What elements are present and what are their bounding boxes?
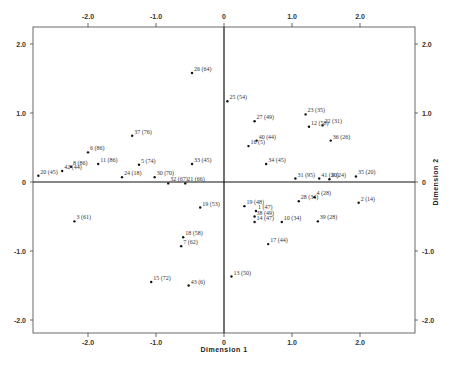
y-tick-label-left: 2.0: [16, 41, 26, 48]
data-point: 34 (45): [265, 157, 286, 165]
data-point: 43 (6): [187, 279, 205, 287]
data-point: 11 (86): [97, 157, 117, 165]
point-marker: [253, 215, 255, 217]
point-marker: [182, 236, 184, 238]
point-label: 17 (44): [270, 237, 288, 244]
point-label: 22 (31): [325, 118, 343, 125]
point-marker: [167, 182, 169, 184]
data-point: 7 (62): [180, 239, 198, 247]
data-point: 23 (35): [304, 107, 325, 115]
data-point: 20 (45): [37, 169, 58, 177]
x-tick-label-top: -1.0: [150, 13, 162, 20]
point-label: 23 (35): [308, 107, 326, 114]
data-point: 6 (86): [87, 145, 105, 153]
point-label: 27 (49): [257, 114, 275, 121]
data-point: 21 (66): [184, 176, 205, 184]
point-label: 39 (28): [320, 214, 338, 221]
data-point: 18 (58): [182, 230, 203, 238]
point-marker: [184, 182, 186, 184]
point-label: 25 (54): [229, 94, 247, 101]
y-tick-label-left: 1.0: [16, 110, 26, 117]
x-tick-label-bottom: -1.0: [150, 339, 162, 346]
point-marker: [267, 243, 269, 245]
point-label: 36 (26): [333, 134, 351, 141]
x-tick-label-top: 0: [222, 13, 226, 20]
x-tick-label-bottom: 1.0: [287, 339, 297, 346]
point-label: 21 (66): [187, 176, 205, 183]
point-label: 20 (45): [40, 169, 58, 176]
point-marker: [355, 175, 357, 177]
point-marker: [37, 175, 39, 177]
point-marker: [281, 221, 283, 223]
point-label: 9 (24): [331, 172, 346, 179]
point-marker: [73, 220, 75, 222]
point-marker: [308, 126, 310, 128]
data-point: 39 (28): [317, 214, 338, 222]
data-point: 36 (26): [330, 134, 351, 142]
point-marker: [97, 163, 99, 165]
point-label: 42 (44): [64, 164, 82, 171]
point-label: 31 (95): [297, 172, 315, 179]
point-marker: [294, 177, 296, 179]
scatter-chart: -2.0-2.0-1.0-1.0001.01.02.02.0 2.02.01.0…: [0, 0, 452, 369]
data-point: 42 (44): [61, 164, 82, 172]
data-point: 27 (49): [253, 114, 274, 122]
point-marker: [243, 205, 245, 207]
y-tick-label-right: 1.0: [422, 110, 432, 117]
point-label: 2 (14): [361, 196, 376, 203]
data-point: 25 (54): [226, 94, 247, 102]
point-label: 6 (86): [90, 145, 105, 152]
y-axis-label: Dimension 2: [432, 158, 439, 205]
point-label: 34 (45): [268, 157, 286, 164]
point-marker: [304, 113, 306, 115]
point-marker: [131, 135, 133, 137]
point-marker: [298, 200, 300, 202]
point-label: 3 (61): [76, 214, 91, 221]
point-marker: [187, 284, 189, 286]
point-marker: [191, 163, 193, 165]
data-point: 2 (14): [357, 196, 375, 204]
point-label: 18 (58): [185, 230, 203, 237]
point-label: 7 (62): [183, 239, 198, 246]
point-label: 16 (5): [250, 139, 264, 146]
data-points: 26 (64)25 (54)27 (49)23 (35)12 (58)22 (3…: [37, 66, 375, 287]
point-label: 24 (18): [124, 170, 142, 177]
point-marker: [253, 221, 255, 223]
data-point: 17 (44): [267, 237, 288, 245]
data-point: 10 (34): [281, 215, 302, 223]
point-marker: [357, 202, 359, 204]
data-point: 31 (95): [294, 172, 315, 180]
point-label: 33 (45): [194, 157, 212, 164]
x-axis-label: Dimension 1: [200, 346, 247, 353]
x-tick-label-bottom: -2.0: [82, 339, 94, 346]
point-label: 13 (50): [233, 270, 251, 277]
y-tick-label-right: 2.0: [422, 41, 432, 48]
point-marker: [180, 245, 182, 247]
data-point: 13 (50): [230, 270, 251, 278]
data-point: 16 (5): [247, 139, 265, 147]
point-marker: [121, 176, 123, 178]
data-point: 15 (72): [150, 275, 171, 283]
data-point: 35 (20): [355, 169, 376, 177]
point-label: 43 (6): [191, 279, 206, 286]
x-tick-label-bottom: 2.0: [355, 339, 365, 346]
point-marker: [226, 100, 228, 102]
data-point: 33 (45): [191, 157, 212, 165]
y-tick-label-left: -2.0: [14, 317, 26, 324]
point-label: 4 (28): [316, 190, 331, 197]
point-marker: [253, 120, 255, 122]
data-point: 24 (18): [121, 170, 142, 178]
point-label: 11 (86): [100, 157, 117, 164]
data-point: 3 (61): [73, 214, 91, 222]
point-marker: [150, 281, 152, 283]
x-tick-label-top: 2.0: [355, 13, 365, 20]
point-marker: [153, 176, 155, 178]
y-tick-label-left: -1.0: [14, 248, 26, 255]
y-tick-label-left: 0: [22, 179, 26, 186]
y-tick-label-right: 0: [422, 179, 426, 186]
point-marker: [199, 206, 201, 208]
point-marker: [313, 196, 315, 198]
point-marker: [328, 178, 330, 180]
point-marker: [321, 124, 323, 126]
plot-frame: [33, 27, 415, 333]
